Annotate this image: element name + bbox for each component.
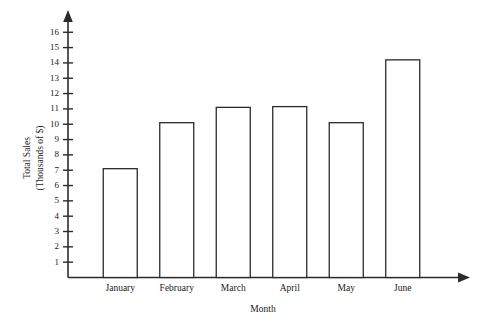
y-tick-label: 1 (55, 257, 60, 267)
y-tick-label: 13 (50, 73, 60, 83)
bar (273, 107, 307, 278)
y-tick-label: 6 (55, 180, 60, 190)
bar (216, 107, 250, 277)
bar-chart: 12345678910111213141516 JanuaryFebruaryM… (0, 0, 493, 326)
x-axis-arrow-icon (458, 273, 470, 283)
bar-series (103, 60, 420, 278)
y-tick-label: 7 (55, 165, 60, 175)
y-axis-title: Total Sales (Thousands of $) (22, 126, 46, 191)
y-tick-label: 4 (55, 211, 60, 221)
y-axis (63, 10, 73, 278)
y-tick-label: 5 (55, 195, 60, 205)
y-tick-label: 16 (50, 27, 60, 37)
chart-page: 12345678910111213141516 JanuaryFebruaryM… (0, 0, 493, 326)
y-tick-label: 8 (55, 149, 60, 159)
y-axis-title-line1: Total Sales (22, 137, 32, 179)
y-tick-label: 10 (50, 119, 60, 129)
x-axis-category-labels: JanuaryFebruaryMarchAprilMayJune (105, 283, 411, 293)
x-tick-label: April (280, 283, 300, 293)
bar (103, 169, 137, 278)
y-tick-label: 14 (50, 57, 60, 67)
bar (160, 123, 194, 278)
y-tick-label: 12 (50, 88, 59, 98)
y-axis-ticks: 12345678910111213141516 (50, 27, 73, 267)
x-tick-label: February (160, 283, 195, 293)
x-axis-title: Month (250, 304, 276, 314)
x-tick-label: January (105, 283, 135, 293)
y-tick-label: 9 (55, 134, 60, 144)
bar (329, 123, 363, 278)
x-tick-label: June (394, 283, 411, 293)
y-axis-title-line2: (Thousands of $) (35, 126, 46, 191)
x-tick-label: May (338, 283, 356, 293)
y-tick-label: 11 (50, 103, 59, 113)
y-axis-arrow-icon (63, 10, 73, 22)
bar (386, 60, 420, 278)
y-tick-label: 15 (50, 42, 60, 52)
y-tick-label: 2 (55, 241, 60, 251)
x-tick-label: March (221, 283, 246, 293)
y-tick-label: 3 (55, 226, 60, 236)
